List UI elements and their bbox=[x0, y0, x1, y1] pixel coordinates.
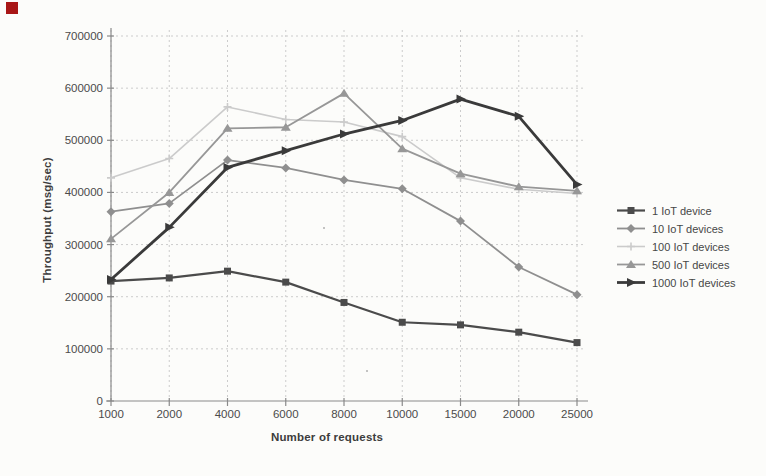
legend: 1 IoT device10 IoT devices100 IoT device… bbox=[616, 204, 736, 294]
triangle-marker-icon bbox=[339, 89, 349, 97]
arrow-right-legend-icon bbox=[616, 276, 646, 289]
arrow-right-marker-icon bbox=[398, 116, 408, 125]
y-tick-label: 500000 bbox=[65, 134, 103, 146]
plus-marker-icon bbox=[340, 118, 348, 126]
x-axis-title: Number of requests bbox=[232, 431, 422, 443]
scan-speck bbox=[366, 370, 368, 372]
diamond-marker-icon bbox=[281, 163, 290, 172]
diamond-marker-icon bbox=[107, 207, 116, 216]
x-tick-label: 2000 bbox=[156, 408, 182, 420]
x-tick-label: 15000 bbox=[445, 408, 477, 420]
square-marker-icon bbox=[399, 319, 406, 326]
scan-speck bbox=[323, 227, 325, 229]
legend-label: 100 IoT devices bbox=[652, 241, 729, 253]
arrow-right-marker-icon bbox=[340, 130, 350, 139]
y-axis-title: Throughput (msg/sec) bbox=[41, 157, 53, 282]
x-tick-label: 8000 bbox=[331, 408, 357, 420]
x-tick-label: 1000 bbox=[98, 408, 124, 420]
plus-legend-icon bbox=[616, 240, 646, 253]
legend-item-500-iot-devices: 500 IoT devices bbox=[616, 258, 736, 271]
legend-item-100-iot-devices: 100 IoT devices bbox=[616, 240, 736, 253]
legend-label: 1 IoT device bbox=[652, 205, 712, 217]
arrow-right-marker-icon bbox=[282, 146, 292, 155]
plus-marker-icon bbox=[282, 115, 290, 123]
legend-label: 500 IoT devices bbox=[652, 259, 729, 271]
diamond-marker-icon bbox=[398, 184, 407, 193]
legend-item-1000-iot-devices: 1000 IoT devices bbox=[616, 276, 736, 289]
legend-item-10-iot-devices: 10 IoT devices bbox=[616, 222, 736, 235]
y-tick-label: 200000 bbox=[65, 291, 103, 303]
x-tick-label: 6000 bbox=[273, 408, 299, 420]
y-tick-label: 400000 bbox=[65, 186, 103, 198]
plus-marker-icon bbox=[107, 174, 115, 182]
arrow-right-marker-icon bbox=[627, 278, 637, 287]
square-marker-icon bbox=[166, 274, 173, 281]
y-tick-label: 100000 bbox=[65, 343, 103, 355]
plus-marker-icon bbox=[627, 243, 635, 251]
y-tick-label: 0 bbox=[97, 395, 103, 407]
y-tick-label: 600000 bbox=[65, 82, 103, 94]
x-tick-label: 10000 bbox=[386, 408, 418, 420]
legend-label: 10 IoT devices bbox=[652, 223, 723, 235]
diamond-marker-icon bbox=[627, 224, 636, 233]
square-marker-icon bbox=[515, 329, 522, 336]
diamond-legend-icon bbox=[616, 222, 646, 235]
arrow-right-marker-icon bbox=[457, 95, 467, 104]
x-tick-label: 20000 bbox=[503, 408, 535, 420]
square-marker-icon bbox=[224, 268, 231, 275]
x-tick-label: 25000 bbox=[561, 408, 593, 420]
arrow-right-marker-icon bbox=[224, 163, 234, 172]
triangle-legend-icon bbox=[616, 258, 646, 271]
square-marker-icon bbox=[628, 207, 635, 214]
diamond-marker-icon bbox=[573, 290, 582, 299]
square-legend-icon bbox=[616, 204, 646, 217]
legend-item-1-iot-device: 1 IoT device bbox=[616, 204, 736, 217]
square-marker-icon bbox=[341, 299, 348, 306]
y-tick-label: 700000 bbox=[65, 30, 103, 42]
square-marker-icon bbox=[574, 339, 581, 346]
triangle-marker-icon bbox=[456, 169, 466, 177]
x-tick-label: 4000 bbox=[215, 408, 241, 420]
square-marker-icon bbox=[457, 321, 464, 328]
legend-label: 1000 IoT devices bbox=[652, 277, 736, 289]
diamond-marker-icon bbox=[340, 175, 349, 184]
square-marker-icon bbox=[282, 279, 289, 286]
y-tick-label: 300000 bbox=[65, 239, 103, 251]
chart-figure: 0100000200000300000400000500000600000700… bbox=[0, 0, 766, 476]
